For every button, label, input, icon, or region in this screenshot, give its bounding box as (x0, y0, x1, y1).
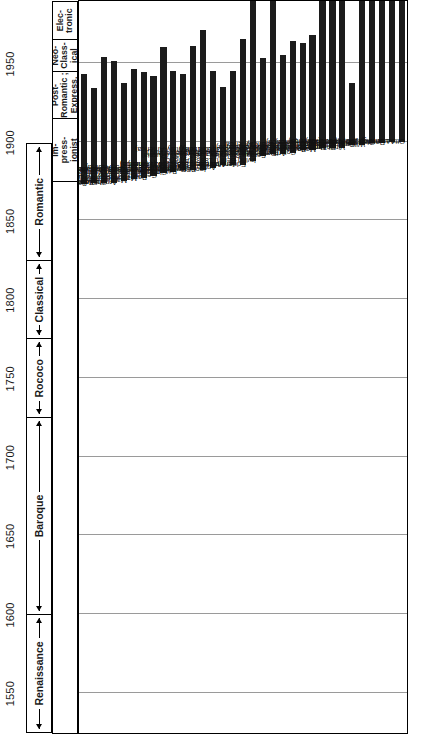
lifespan-bar (359, 0, 365, 145)
era-modern-empty-filler (52, 182, 78, 734)
lifespan-bar (260, 58, 266, 156)
lifespan-bar (101, 57, 107, 183)
gridline-1750 (79, 377, 407, 378)
lifespan-bar (170, 71, 176, 172)
era-label: Classical (33, 277, 45, 323)
lifespan-bar (160, 47, 166, 173)
year-tick-1700: 1700 (4, 445, 16, 470)
era-modern-post-romantic-express-: Post- Romantic ; Express. (52, 72, 78, 119)
era-label: Post- Romantic ; Express. (52, 72, 78, 117)
lifespan-bar (190, 46, 196, 170)
year-tick-1550: 1550 (4, 681, 16, 706)
lifespan-bar (180, 74, 186, 170)
era-renaissance: Renaissance (26, 615, 52, 733)
lifespan-bar (339, 0, 345, 148)
era-label: Baroque (33, 495, 45, 538)
era-label: Renaissance (33, 641, 45, 705)
lifespan-bar (369, 0, 375, 143)
lifespan-bar (379, 0, 385, 143)
gridline-1700 (79, 456, 407, 457)
era-romantic: Romantic (26, 143, 52, 261)
composers-timeline-figure: 155016001650170017501800185019001950 Ren… (0, 0, 430, 734)
lifespan-bar (121, 83, 127, 181)
lifespan-bar (150, 76, 156, 177)
lifespan-bar (389, 0, 395, 142)
lifespan-bar (309, 35, 315, 150)
era-label: Neo- Class- ical (52, 42, 78, 68)
lifespan-bar (91, 88, 97, 182)
era-label: Im- press- ionist (52, 137, 78, 163)
year-tick-1750: 1750 (4, 366, 16, 391)
year-tick-1600: 1600 (4, 602, 16, 627)
lifespan-plot-area: Sergey Rachmaninoff, 1873-1943 (Russia)G… (78, 0, 408, 734)
era-modern-elec-tronic: Elec- tronic (52, 1, 78, 40)
year-tick-1850: 1850 (4, 209, 16, 234)
era-band-broad-periods: RenaissanceBaroqueRococoClassicalRomanti… (26, 0, 52, 734)
lifespan-bar (210, 71, 216, 169)
timeline-figure-rotator: 155016001650170017501800185019001950 Ren… (0, 0, 430, 734)
lifespan-bar (329, 0, 335, 148)
gridline-1550 (79, 692, 407, 693)
gridline-1600 (79, 613, 407, 614)
gridline-1800 (79, 298, 407, 299)
era-modern-neo-class-ical: Neo- Class- ical (52, 40, 78, 71)
year-tick-1800: 1800 (4, 287, 16, 312)
lifespan-bar (220, 87, 226, 166)
lifespan-bar (131, 69, 137, 179)
era-classical: Classical (26, 261, 52, 340)
lifespan-bar (270, 0, 276, 154)
lifespan-bar (319, 0, 325, 148)
year-axis: 155016001650170017501800185019001950 (0, 0, 26, 734)
gridline-1650 (79, 534, 407, 535)
lifespan-bar (300, 43, 306, 150)
lifespan-bar (399, 0, 405, 142)
lifespan-bar (240, 39, 246, 165)
era-modern-im-press-ionist: Im- press- ionist (52, 119, 78, 182)
lifespan-bar (200, 30, 206, 170)
lifespan-bar (230, 71, 236, 165)
lifespan-bar (280, 55, 286, 154)
lifespan-bar (250, 0, 256, 161)
lifespan-bar (290, 41, 296, 153)
era-label: Elec- tronic (56, 8, 75, 32)
composer-label: Jerome Kern, 1885-1945 (America) (120, 161, 236, 168)
lifespan-bar (349, 83, 355, 144)
era-label: Rococo (33, 359, 45, 398)
year-tick-1650: 1650 (4, 524, 16, 549)
era-label: Romantic (33, 178, 45, 226)
lifespan-bar (81, 74, 87, 184)
era-rococo: Rococo (26, 339, 52, 418)
era-band-modern-periods: Im- press- ionistPost- Romantic ; Expres… (52, 0, 78, 734)
lifespan-bar (111, 61, 117, 182)
gridline-1850 (79, 219, 407, 220)
lifespan-bar (141, 72, 147, 177)
year-tick-1900: 1900 (4, 130, 16, 155)
year-tick-1950: 1950 (4, 51, 16, 76)
era-baroque: Baroque (26, 418, 52, 615)
